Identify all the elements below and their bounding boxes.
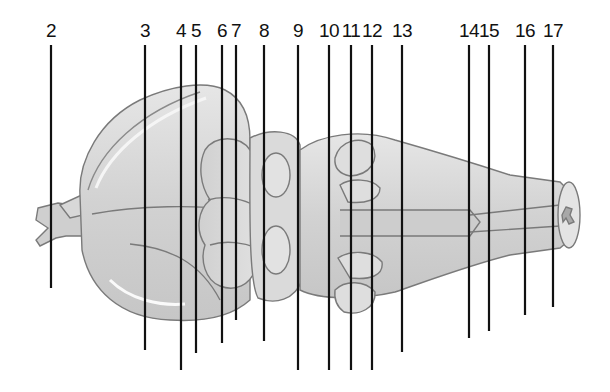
label-15: 15 [479,21,499,40]
brain-shape [36,85,580,320]
label-2: 2 [46,21,56,40]
label-8: 8 [259,21,269,40]
label-4: 4 [176,21,186,40]
label-13: 13 [392,21,412,40]
label-12: 12 [362,21,382,40]
label-6: 6 [217,21,227,40]
label-11: 11 [342,21,361,40]
brain-diagram: 234567891011121314151617 [0,0,610,392]
label-10: 10 [319,21,339,40]
label-16: 16 [515,21,535,40]
label-7: 7 [231,21,241,40]
label-17: 17 [543,21,563,40]
brain-illustration [0,0,610,392]
label-14: 14 [459,21,479,40]
label-9: 9 [293,21,303,40]
label-3: 3 [140,21,150,40]
label-5: 5 [191,21,201,40]
